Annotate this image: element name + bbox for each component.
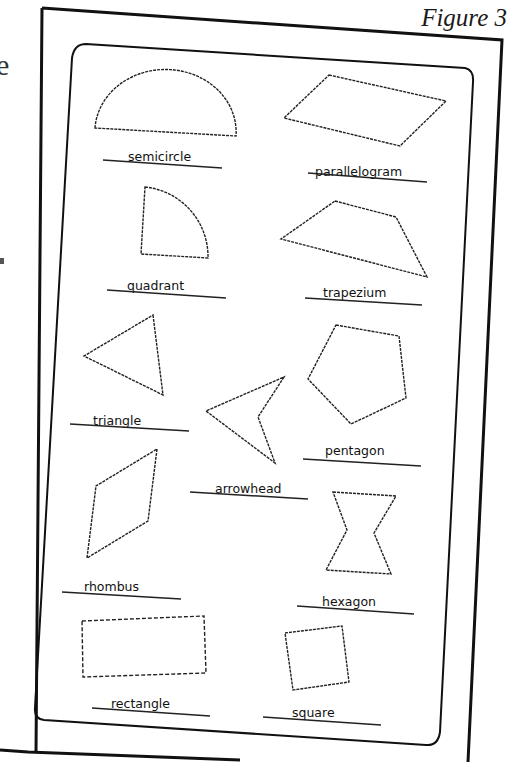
answer-line <box>303 459 421 466</box>
outer-frame-bottom <box>0 750 240 760</box>
rectangle-label: rectangle <box>111 696 170 711</box>
trapezium-label: trapezium <box>323 285 386 300</box>
square-label: square <box>292 705 335 720</box>
shape-semicircle: semicircle <box>95 69 236 168</box>
parallelogram-icon <box>284 75 446 146</box>
quadrant-label: quadrant <box>127 278 184 293</box>
rhombus-label: rhombus <box>84 579 139 594</box>
shape-quadrant: quadrant <box>107 187 226 298</box>
hexagon-icon <box>326 492 396 574</box>
rhombus-icon <box>87 449 157 558</box>
pentagon-icon <box>308 325 406 424</box>
shape-rectangle: rectangle <box>82 616 210 716</box>
shape-pentagon: pentagon <box>303 325 421 466</box>
shape-trapezium: trapezium <box>281 201 427 305</box>
hexagon-label: hexagon <box>322 594 376 609</box>
arrowhead-icon <box>206 377 284 463</box>
shape-hexagon: hexagon <box>297 492 414 614</box>
inner-panel <box>35 44 473 745</box>
semicircle-icon <box>95 69 236 136</box>
trapezium-icon <box>281 201 427 277</box>
rectangle-icon <box>82 616 206 677</box>
triangle-icon <box>84 315 163 395</box>
quadrant-icon <box>141 187 208 258</box>
square-icon <box>285 626 349 690</box>
shape-arrowhead: arrowhead <box>190 377 308 499</box>
shape-square: square <box>263 626 381 725</box>
shapes-worksheet: semicircle parallelogram quadrant trapez… <box>0 0 511 765</box>
shape-rhombus: rhombus <box>62 449 181 599</box>
pentagon-label: pentagon <box>325 443 385 458</box>
shape-triangle: triangle <box>70 315 189 431</box>
outer-frame <box>36 8 502 762</box>
shape-parallelogram: parallelogram <box>284 75 446 182</box>
